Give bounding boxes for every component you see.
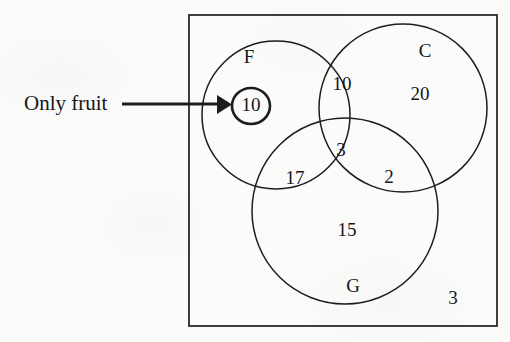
set-circle-f	[202, 41, 350, 189]
callout-arrow-head	[217, 95, 232, 114]
region-count-outside: 3	[448, 287, 458, 308]
region-count-g-only: 15	[338, 219, 357, 240]
region-count-f-only: 10	[242, 94, 261, 115]
venn-diagram-canvas: Only fruit F C G 10 10 20 3 17 2 15 3	[0, 0, 510, 342]
venn-diagram-page: Only fruit F C G 10 10 20 3 17 2 15 3	[0, 0, 510, 342]
region-count-all-three: 3	[336, 139, 346, 160]
region-count-c-and-g: 2	[384, 166, 394, 187]
set-label-f: F	[244, 46, 255, 67]
region-count-f-and-g: 17	[286, 167, 305, 188]
set-label-c: C	[419, 40, 432, 61]
set-circle-c	[319, 24, 487, 192]
universal-set-box	[189, 15, 497, 326]
region-count-c-only: 20	[411, 83, 430, 104]
set-label-g: G	[346, 275, 360, 296]
callout-label: Only fruit	[24, 91, 108, 115]
region-count-f-and-c: 10	[333, 73, 352, 94]
